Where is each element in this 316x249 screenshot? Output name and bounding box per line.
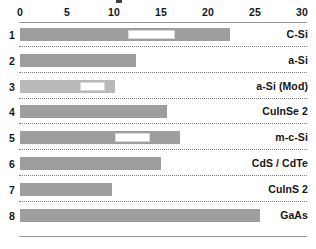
bar-m-c-si bbox=[20, 131, 180, 144]
chart-row: 3a-Si (Mod) bbox=[0, 78, 316, 104]
row-index-label: 1 bbox=[9, 29, 19, 41]
row-index-label: 5 bbox=[9, 132, 19, 144]
category-label: m-c-Si bbox=[275, 131, 308, 144]
category-label: a-Si bbox=[288, 54, 308, 67]
bar-cds-cdte bbox=[20, 157, 161, 170]
row-separator bbox=[19, 72, 307, 73]
bar-track bbox=[20, 28, 302, 41]
category-label: CuInSe 2 bbox=[262, 105, 308, 118]
chart-row: 6CdS / CdTe bbox=[0, 155, 316, 181]
bar-cuinse-2 bbox=[20, 105, 167, 118]
bar-a-si bbox=[20, 54, 136, 67]
chart-row: 5m-c-Si bbox=[0, 129, 316, 155]
chart-row: 8GaAs bbox=[0, 207, 316, 233]
row-index-label: 3 bbox=[9, 81, 19, 93]
category-label: C-Si bbox=[287, 28, 308, 41]
x-tick-label-30: 30 bbox=[296, 6, 308, 18]
bar-track bbox=[20, 105, 302, 118]
bar-chart: 051015202530 1C-Si2a-Si3a-Si (Mod)4CuInS… bbox=[0, 0, 316, 249]
category-label: CdS / CdTe bbox=[252, 157, 308, 170]
x-tick-label-0: 0 bbox=[17, 6, 23, 18]
x-tick-label-25: 25 bbox=[249, 6, 261, 18]
row-index-label: 2 bbox=[9, 55, 19, 67]
row-separator bbox=[19, 201, 307, 202]
chart-row: 1C-Si bbox=[0, 26, 316, 52]
chart-row: 4CuInSe 2 bbox=[0, 103, 316, 129]
bar-track bbox=[20, 183, 302, 196]
category-label: CuInS 2 bbox=[268, 183, 308, 196]
cropped-title-remnant bbox=[116, 0, 122, 3]
category-label: GaAs bbox=[280, 209, 308, 222]
row-separator bbox=[19, 175, 307, 176]
x-tick-label-5: 5 bbox=[64, 6, 70, 18]
row-separator bbox=[19, 149, 307, 150]
bar-c-si bbox=[20, 28, 230, 41]
x-axis-bottom-rule bbox=[19, 236, 307, 237]
x-tick-label-20: 20 bbox=[202, 6, 214, 18]
row-separator bbox=[19, 46, 307, 47]
chart-row: 2a-Si bbox=[0, 52, 316, 78]
x-tick-label-10: 10 bbox=[108, 6, 120, 18]
x-axis-top-rule bbox=[19, 22, 307, 23]
chart-row: 7CuInS 2 bbox=[0, 181, 316, 207]
x-tick-label-15: 15 bbox=[155, 6, 167, 18]
bar-gap-marker bbox=[80, 82, 104, 91]
row-index-label: 8 bbox=[9, 210, 19, 222]
bar-track bbox=[20, 209, 302, 222]
x-axis-tick-labels: 051015202530 bbox=[0, 6, 316, 20]
row-separator bbox=[19, 98, 307, 99]
chart-rows: 1C-Si2a-Si3a-Si (Mod)4CuInSe 25m-c-Si6Cd… bbox=[0, 26, 316, 234]
bar-gap-marker bbox=[128, 30, 175, 39]
bar-cuins-2 bbox=[20, 183, 112, 196]
bar-track bbox=[20, 54, 302, 67]
bar-track bbox=[20, 131, 302, 144]
category-label: a-Si (Mod) bbox=[256, 80, 308, 93]
bar-gaas bbox=[20, 209, 260, 222]
row-index-label: 7 bbox=[9, 184, 19, 196]
row-separator bbox=[19, 123, 307, 124]
bar-gap-marker bbox=[115, 133, 150, 142]
row-index-label: 4 bbox=[9, 106, 19, 118]
row-index-label: 6 bbox=[9, 158, 19, 170]
